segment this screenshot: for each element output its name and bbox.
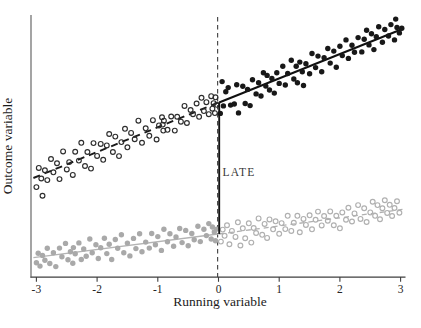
data-point (119, 232, 124, 237)
data-point (121, 250, 126, 255)
data-point (87, 236, 92, 241)
data-point (159, 248, 164, 253)
data-point (380, 40, 385, 45)
x-tick-label: -2 (92, 283, 102, 295)
x-tick-label: 0 (216, 283, 222, 295)
data-point (297, 59, 302, 64)
data-point (264, 73, 269, 78)
data-point (388, 22, 393, 27)
data-point (171, 244, 176, 249)
data-point (153, 242, 158, 247)
data-point (192, 237, 197, 242)
data-point (280, 64, 285, 69)
data-point (167, 231, 172, 236)
data-point (300, 69, 305, 74)
data-point (331, 48, 336, 53)
data-point (195, 224, 200, 229)
data-point (359, 49, 364, 54)
data-point (234, 82, 239, 87)
data-point (204, 233, 209, 238)
data-point (213, 238, 218, 243)
data-point (245, 87, 250, 92)
data-point (301, 83, 306, 88)
data-point (362, 37, 367, 42)
data-point (272, 90, 277, 95)
data-point (84, 254, 89, 259)
data-point (236, 110, 241, 115)
data-point (96, 256, 101, 261)
data-point (133, 246, 138, 251)
data-point (346, 56, 351, 61)
data-point (42, 258, 47, 263)
data-point (399, 26, 404, 31)
data-point (173, 234, 178, 239)
data-point (232, 101, 237, 106)
data-point (73, 251, 78, 256)
data-point (321, 55, 326, 60)
data-point (269, 76, 274, 81)
data-point (71, 245, 76, 250)
data-point (137, 231, 142, 236)
data-point (198, 239, 203, 244)
y-axis-label: Outcome variable (0, 98, 15, 194)
data-point (319, 69, 324, 74)
data-point (337, 44, 342, 49)
data-point (149, 231, 154, 236)
data-point (294, 64, 299, 69)
data-point (369, 31, 374, 36)
data-point (285, 71, 290, 76)
data-point (340, 53, 345, 58)
rdd-figure: -3-2-10123 LATE Running variable Outcome… (0, 0, 421, 328)
data-point (102, 236, 107, 241)
data-point (325, 46, 330, 51)
data-point (201, 227, 206, 232)
data-point (189, 231, 194, 236)
data-point (253, 91, 258, 96)
data-point (352, 50, 357, 55)
data-point (177, 226, 182, 231)
data-point (125, 240, 130, 245)
data-point (349, 43, 354, 48)
x-tick-label: 2 (337, 283, 343, 295)
data-point (59, 254, 64, 259)
x-tick-label: -1 (153, 283, 163, 295)
x-tick-label: 1 (276, 283, 282, 295)
rdd-plot: -3-2-10123 LATE Running variable Outcome… (0, 0, 421, 328)
data-point (165, 239, 170, 244)
data-point (283, 82, 288, 87)
data-point (374, 34, 379, 39)
data-point (364, 28, 369, 33)
data-point (386, 33, 391, 38)
data-point (147, 245, 152, 250)
data-point (394, 25, 399, 30)
data-point (79, 257, 84, 262)
data-point (143, 239, 148, 244)
data-point (226, 85, 231, 90)
data-point (47, 261, 52, 266)
data-point (250, 77, 255, 82)
data-point (104, 251, 109, 256)
data-point (51, 250, 56, 255)
late-label: LATE (223, 166, 256, 178)
data-point (397, 30, 402, 35)
data-point (115, 246, 120, 251)
data-point (274, 70, 279, 75)
data-point (131, 236, 136, 241)
data-point (139, 249, 144, 254)
data-point (219, 79, 224, 84)
data-point (328, 60, 333, 65)
data-point (109, 257, 114, 262)
data-point (90, 250, 95, 255)
data-point (315, 53, 320, 58)
data-point (63, 241, 68, 246)
data-point (81, 246, 86, 251)
data-point (355, 35, 360, 40)
data-point (183, 228, 188, 233)
data-point (40, 253, 45, 258)
data-point (295, 80, 300, 85)
data-point (247, 103, 252, 108)
data-point (243, 101, 248, 106)
data-point (70, 261, 75, 266)
data-point (76, 240, 81, 245)
data-point (37, 263, 42, 268)
